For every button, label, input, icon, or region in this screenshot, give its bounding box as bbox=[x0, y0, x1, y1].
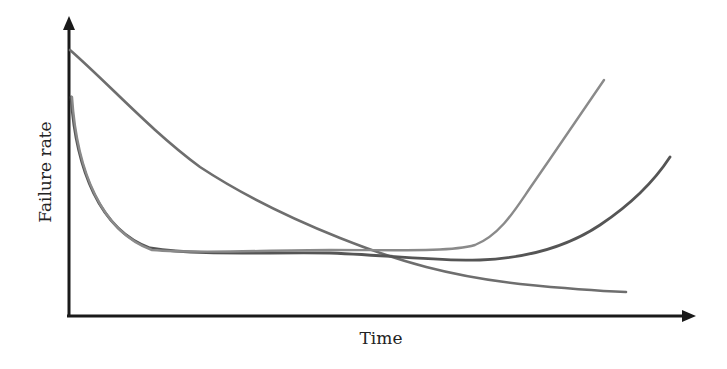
curve-bathtub-dark bbox=[71, 97, 670, 260]
y-axis bbox=[63, 16, 75, 317]
curves bbox=[70, 50, 670, 292]
y-axis-label: Failure rate bbox=[35, 121, 55, 222]
x-axis bbox=[67, 310, 696, 322]
failure-rate-chart: Time Failure rate bbox=[0, 0, 727, 369]
x-axis-label: Time bbox=[360, 328, 403, 348]
curve-bathtub-light bbox=[72, 80, 604, 252]
x-axis-arrow-icon bbox=[682, 310, 696, 322]
y-axis-arrow-icon bbox=[63, 16, 75, 30]
